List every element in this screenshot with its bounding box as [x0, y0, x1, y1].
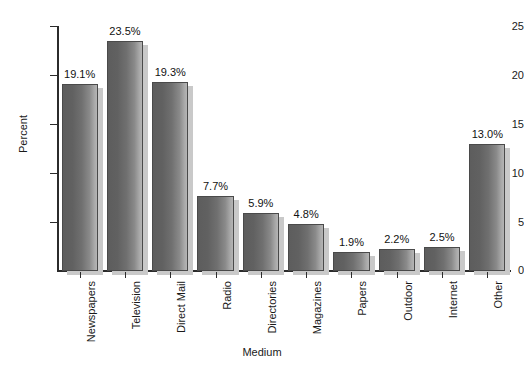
bar-body [243, 213, 279, 271]
x-category-label: Outdoor [402, 281, 414, 321]
x-category-label: Directories [266, 281, 278, 334]
bar: 19.1% [62, 84, 98, 271]
bar-chart: Percent 25 20 15 10 5 0 19.1%23.5%19.3%7… [0, 0, 524, 368]
plot-area: 19.1%23.5%19.3%7.7%5.9%4.8%1.9%2.2%2.5%1… [57, 26, 510, 271]
x-category-label: Other [492, 281, 504, 309]
bar-value-label: 5.9% [248, 198, 273, 209]
bar-body [152, 82, 188, 271]
x-category-label: Direct Mail [175, 281, 187, 333]
bar-body [424, 247, 460, 272]
bar-body [333, 252, 369, 271]
bar: 7.7% [197, 196, 233, 271]
x-tick-mark [80, 272, 81, 278]
bar-body [379, 249, 415, 271]
bar-body [62, 84, 98, 271]
x-tick-mark [306, 272, 307, 278]
bar: 19.3% [152, 82, 188, 271]
bar-body [288, 224, 324, 271]
bar-body [469, 144, 505, 271]
x-category-label: Internet [447, 281, 459, 318]
bar-value-label: 7.7% [203, 181, 228, 192]
bar: 2.5% [424, 247, 460, 272]
x-tick-mark [351, 272, 352, 278]
x-category-label: Television [130, 281, 142, 329]
y-axis-title: Percent [17, 104, 29, 164]
bar: 13.0% [469, 144, 505, 271]
bar-value-label: 19.3% [155, 67, 186, 78]
bar: 2.2% [379, 249, 415, 271]
x-category-label: Magazines [311, 281, 323, 334]
bar: 23.5% [107, 41, 143, 271]
x-tick-mark [170, 272, 171, 278]
x-category-label: Radio [221, 281, 233, 310]
x-tick-mark [125, 272, 126, 278]
bar-value-label: 23.5% [109, 26, 140, 37]
bar: 5.9% [243, 213, 279, 271]
bar-value-label: 13.0% [472, 129, 503, 140]
bar: 1.9% [333, 252, 369, 271]
x-tick-mark [261, 272, 262, 278]
x-category-label: Newspapers [85, 281, 97, 342]
x-axis-title: Medium [0, 346, 524, 358]
bar-value-label: 2.5% [429, 232, 454, 243]
bar-value-label: 19.1% [64, 69, 95, 80]
x-category-label: Papers [356, 281, 368, 316]
x-tick-mark [442, 272, 443, 278]
bar-body [197, 196, 233, 271]
bar-value-label: 1.9% [339, 237, 364, 248]
bar-value-label: 2.2% [384, 234, 409, 245]
x-tick-mark [216, 272, 217, 278]
x-tick-mark [487, 272, 488, 278]
bar-body [107, 41, 143, 271]
x-tick-mark [397, 272, 398, 278]
bar-value-label: 4.8% [294, 209, 319, 220]
bar: 4.8% [288, 224, 324, 271]
